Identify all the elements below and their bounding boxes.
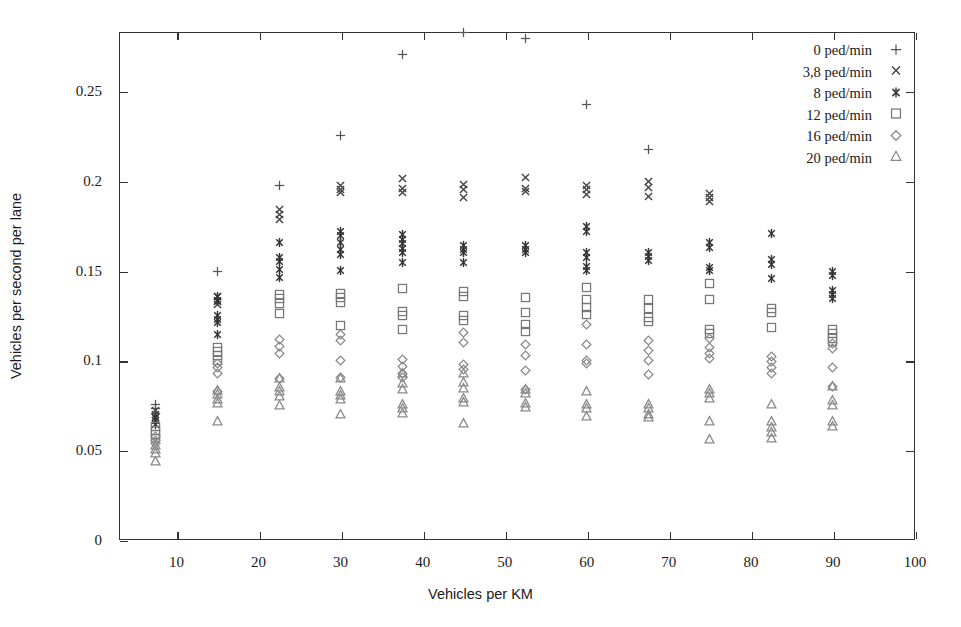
y-axis-tick-label: 0.2 (40, 172, 102, 189)
x-axis-tick-label: 60 (579, 554, 594, 571)
x-axis-tick (752, 532, 753, 539)
legend-entry[interactable]: 20 ped/min (756, 148, 906, 170)
chart-legend: 0 ped/min 3,8 ped/min 8 ped/min 12 ped/m… (756, 40, 906, 169)
x-axis-tick-top (260, 33, 261, 40)
x-axis-tick-top (424, 33, 425, 40)
x-axis-tick-label: 100 (904, 554, 927, 571)
x-axis-tick (342, 532, 343, 539)
y-axis-tick (120, 182, 128, 183)
y-axis-tick (120, 92, 128, 93)
x-axis-tick-label: 70 (661, 554, 676, 571)
x-axis-tick (506, 532, 507, 539)
legend-entry[interactable]: 3,8 ped/min (756, 62, 906, 84)
legend-plus-icon (886, 41, 906, 61)
legend-triangle-icon (886, 148, 906, 168)
x-axis-tick-top (588, 33, 589, 40)
x-axis-tick-label: 90 (825, 554, 840, 571)
y-axis-tick (120, 451, 128, 452)
x-axis-tick-top (506, 33, 507, 40)
x-axis-tick (916, 532, 917, 539)
legend-entry-label: 20 ped/min (806, 150, 886, 167)
x-axis-tick-top (177, 33, 178, 40)
y-axis-tick-right (906, 451, 914, 452)
legend-entry-label: 0 ped/min (814, 42, 886, 59)
x-axis-tick-label: 40 (415, 554, 430, 571)
legend-entry-label: 8 ped/min (814, 85, 886, 102)
x-axis-tick-top (670, 33, 671, 40)
y-axis-tick-label: 0.25 (40, 83, 102, 100)
legend-square-icon (886, 105, 906, 125)
y-axis-tick (120, 361, 128, 362)
y-axis-tick-right (906, 92, 914, 93)
x-axis-tick (260, 532, 261, 539)
y-axis-tick-label: 0.05 (40, 442, 102, 459)
scatter-chart-figure: Vehicles per second per lane Vehicles pe… (0, 0, 961, 627)
legend-entry[interactable]: 0 ped/min (756, 40, 906, 62)
y-axis-tick-label: 0 (40, 532, 102, 549)
y-axis-tick-label: 0.15 (40, 262, 102, 279)
legend-entry-label: 3,8 ped/min (803, 64, 886, 81)
legend-entry[interactable]: 16 ped/min (756, 126, 906, 148)
legend-entry[interactable]: 12 ped/min (756, 105, 906, 127)
y-axis-tick (120, 272, 128, 273)
x-axis-tick-label: 30 (333, 554, 348, 571)
x-axis-tick-label: 50 (497, 554, 512, 571)
y-axis-tick-right (906, 361, 914, 362)
x-axis-tick-top (342, 33, 343, 40)
y-axis-tick-right (906, 272, 914, 273)
x-axis-tick (670, 532, 671, 539)
legend-entry-label: 16 ped/min (806, 128, 886, 145)
legend-cross-icon (886, 62, 906, 82)
y-axis-tick (120, 541, 128, 542)
y-axis-title: Vehicles per second per lane (8, 193, 24, 379)
legend-entry[interactable]: 8 ped/min (756, 83, 906, 105)
x-axis-tick-top (752, 33, 753, 40)
x-axis-tick-top (834, 33, 835, 40)
x-axis-tick (424, 532, 425, 539)
x-axis-title: Vehicles per KM (0, 586, 961, 602)
x-axis-tick-label: 10 (169, 554, 184, 571)
y-axis-tick-label: 0.1 (40, 352, 102, 369)
x-axis-tick (177, 532, 178, 539)
legend-star-icon (886, 84, 906, 104)
y-axis-tick-right (906, 182, 914, 183)
x-axis-tick-label: 80 (743, 554, 758, 571)
legend-entry-label: 12 ped/min (806, 107, 886, 124)
legend-diamond-icon (886, 127, 906, 147)
x-axis-tick-label: 20 (251, 554, 266, 571)
x-axis-tick (588, 532, 589, 539)
x-axis-tick-top (916, 33, 917, 40)
x-axis-tick (834, 532, 835, 539)
